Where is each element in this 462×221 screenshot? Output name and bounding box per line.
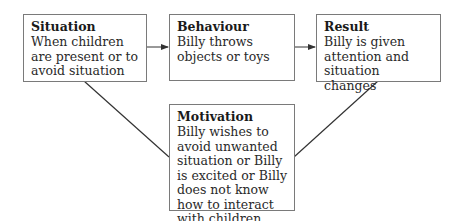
result-title: Result [324,19,433,34]
line-situation-to-motivation [84,81,169,157]
behaviour-title: Behaviour [177,19,287,34]
behaviour-box: Behaviour Billy throws objects or toys [169,14,295,81]
motivation-title: Motivation [177,109,287,124]
motivation-box: Motivation Billy wishes to avoid unwante… [169,104,295,211]
result-text: Billy is given attention and situation c… [324,35,433,93]
situation-text: When children are present or to avoid si… [31,35,139,79]
result-box: Result Billy is given attention and situ… [316,14,441,82]
behaviour-text: Billy throws objects or toys [177,35,287,64]
situation-box: Situation When children are present or t… [23,14,147,82]
motivation-text: Billy wishes to avoid unwanted situation… [177,125,287,221]
situation-title: Situation [31,19,139,34]
